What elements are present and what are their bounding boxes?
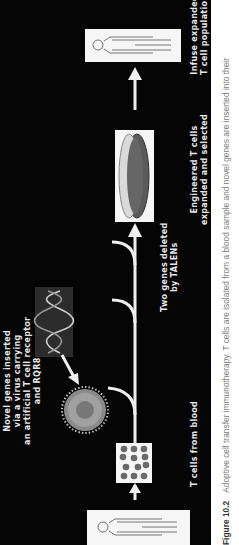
human-figure-icon [87,510,190,545]
human-figure-icon [85,29,181,62]
figure-number: Figure 10.2 [221,501,231,545]
figure-caption: Figure 10.2Adoptive cell transfer immuno… [221,0,237,545]
infusion-box [85,29,181,62]
label-t-cells: T cells from blood [190,401,200,487]
virus-icon [62,387,108,433]
petri-dish-box [115,130,154,222]
diagram-panel: T cells from blood Novel genes inserted … [0,0,211,545]
label-gene-deletion: Two genes deleted by TALENs [160,223,180,312]
cells-icon [116,443,152,483]
label-gene-insertion: Novel genes inserted via a virus carryin… [3,317,43,445]
patient-box [87,510,190,545]
figure-rotated: T cells from blood Novel genes inserted … [0,0,239,545]
label-expansion: Engineered T cells expanded and selected [190,114,210,225]
caption-text: Adoptive cell transfer immunotherapy. T … [221,58,231,493]
t-cells-box [116,443,152,483]
petri-dish-icon [115,130,154,222]
label-infusion: Infuse expanded T cell population [190,0,210,75]
